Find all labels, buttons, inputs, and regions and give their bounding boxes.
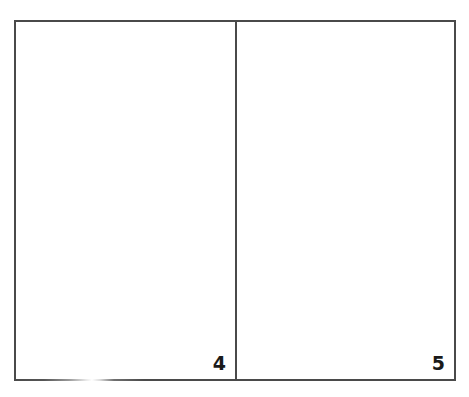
page-number-right: 5	[432, 354, 445, 373]
frame-left-border	[14, 20, 16, 381]
page-left: 4	[16, 22, 235, 379]
page-divider	[235, 20, 237, 381]
page-spread: 4 5	[14, 20, 456, 380]
page-right: 5	[237, 22, 454, 379]
page-number-left: 4	[213, 354, 226, 373]
frame-right-border	[454, 20, 456, 381]
